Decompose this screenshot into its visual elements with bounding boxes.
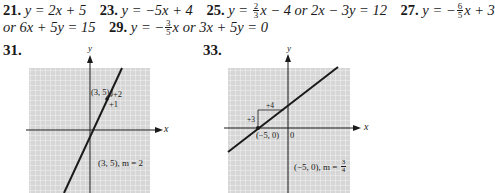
graph-33-rise-label: +3 [247, 115, 255, 124]
graph-33-y-arrow-icon [285, 54, 291, 62]
graph-31-point-label: (3, 5) [91, 87, 109, 97]
graph-33-run-label: +4 [266, 101, 274, 110]
graph-31-x-label: x [164, 123, 168, 134]
graph-31 [26, 55, 163, 193]
graph-33-y-label: y [287, 43, 291, 53]
graph-33-caption: (−5, 0), m = 34 [294, 160, 347, 175]
graph-31-caption: (3, 5), m = 2 [98, 158, 143, 168]
graph-33-point-label: (−5, 0) [256, 130, 279, 140]
graph-31-rise-label: +2 [113, 89, 122, 99]
graph-31-y-label: y [88, 43, 92, 53]
graph-31-y-arrow-icon [87, 55, 93, 63]
graph-31-run-label: +1 [109, 99, 118, 109]
graph-33-x-label: x [364, 121, 368, 132]
graph-33-x-arrow-icon [353, 125, 361, 131]
graph-31-x-arrow-icon [155, 127, 163, 133]
graph-33-origin-label: 0 [290, 130, 294, 140]
